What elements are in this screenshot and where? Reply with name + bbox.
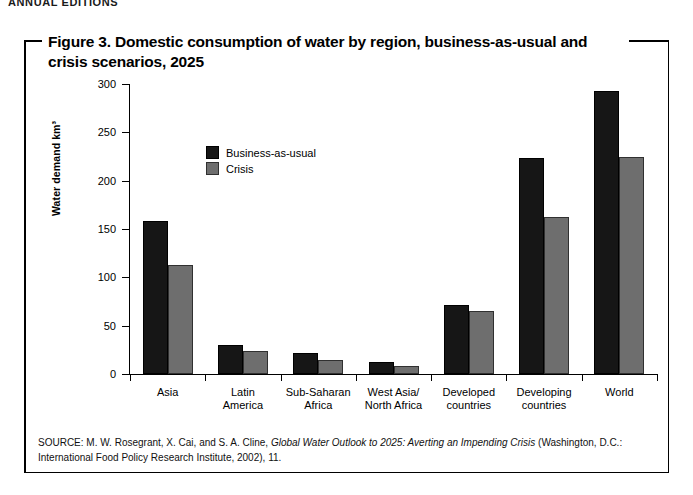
bar-business-as-usual <box>594 91 619 374</box>
x-axis-category-label: Developingcountries <box>506 386 581 412</box>
chart-plot-area: Water demand km³ 050100150200250300 Asia… <box>24 84 669 424</box>
x-axis-tick-mark <box>582 374 583 381</box>
bar-group <box>293 84 343 374</box>
x-axis-tick-mark <box>130 374 131 381</box>
y-axis-tick-label: 0 <box>110 368 116 380</box>
y-axis-tick-mark <box>122 181 129 182</box>
bar-crisis <box>243 351 268 374</box>
bar-crisis <box>318 360 343 374</box>
x-axis-tick-mark <box>356 374 357 381</box>
y-axis-tick-mark <box>122 374 129 375</box>
bar-business-as-usual <box>293 353 318 374</box>
x-axis-line <box>129 374 657 375</box>
source-prefix: SOURCE: M. W. Rosegrant, X. Cai, and S. … <box>38 437 271 448</box>
x-axis-tick-mark <box>506 374 507 381</box>
y-axis-tick-mark <box>122 326 129 327</box>
x-axis-category-label: West Asia/North Africa <box>356 386 431 412</box>
bar-crisis <box>544 217 569 374</box>
y-axis-tick-label: 300 <box>98 78 116 90</box>
bar-group <box>369 84 419 374</box>
bar-business-as-usual <box>444 305 469 374</box>
chart-legend: Business-as-usualCrisis <box>206 146 316 178</box>
frame-border-top-left <box>24 40 42 42</box>
x-axis-category-label: World <box>582 386 657 399</box>
y-axis-tick-label: 200 <box>98 175 116 187</box>
y-axis-tick-mark <box>122 277 129 278</box>
x-axis-tick-mark <box>431 374 432 381</box>
y-axis-tick-marks <box>122 84 129 374</box>
y-axis-tick-label: 150 <box>98 223 116 235</box>
y-axis-tick-mark <box>122 84 129 85</box>
bars-container: AsiaLatinAmericaSub-SaharanAfricaWest As… <box>130 84 657 374</box>
figure-frame: Figure 3. Domestic consumption of water … <box>24 32 669 473</box>
bar-crisis <box>394 366 419 374</box>
bar-business-as-usual <box>143 221 168 374</box>
x-axis-category-label: Sub-SaharanAfrica <box>281 386 356 412</box>
y-axis-tick-mark <box>122 229 129 230</box>
bar-business-as-usual <box>369 362 394 374</box>
y-axis-tick-mark <box>122 132 129 133</box>
bar-group <box>218 84 268 374</box>
x-axis-tick-mark <box>281 374 282 381</box>
y-axis-tick-label: 100 <box>98 271 116 283</box>
y-axis-tick-label: 50 <box>104 320 116 332</box>
bar-group <box>143 84 193 374</box>
y-axis-tick-labels: 050100150200250300 <box>70 84 116 374</box>
bar-group <box>594 84 644 374</box>
bar-business-as-usual <box>218 345 243 374</box>
running-header: ANNUAL EDITIONS <box>8 0 118 8</box>
legend-item: Business-as-usual <box>206 146 316 159</box>
bar-business-as-usual <box>519 158 544 374</box>
bar-crisis <box>619 157 644 375</box>
x-axis-category-label: LatinAmerica <box>205 386 280 412</box>
x-axis-tick-mark <box>205 374 206 381</box>
x-axis-category-label: Developedcountries <box>431 386 506 412</box>
legend-item: Crisis <box>206 162 316 175</box>
bar-group <box>444 84 494 374</box>
source-note: SOURCE: M. W. Rosegrant, X. Cai, and S. … <box>38 436 653 465</box>
bar-crisis <box>469 311 494 374</box>
legend-swatch-icon <box>206 146 219 159</box>
legend-label: Business-as-usual <box>226 147 316 159</box>
frame-border-top-right <box>629 40 669 42</box>
y-axis-tick-label: 250 <box>98 126 116 138</box>
source-title: Global Water Outlook to 2025: Averting a… <box>271 437 535 448</box>
legend-label: Crisis <box>226 163 254 175</box>
x-axis-tick-mark <box>657 374 658 381</box>
bar-crisis <box>168 265 193 374</box>
y-axis-title: Water demand km³ <box>50 121 62 216</box>
x-axis-category-label: Asia <box>130 386 205 399</box>
bar-group <box>519 84 569 374</box>
legend-swatch-icon <box>206 162 219 175</box>
figure-title: Figure 3. Domestic consumption of water … <box>48 32 608 73</box>
frame-border-bottom <box>24 472 669 474</box>
